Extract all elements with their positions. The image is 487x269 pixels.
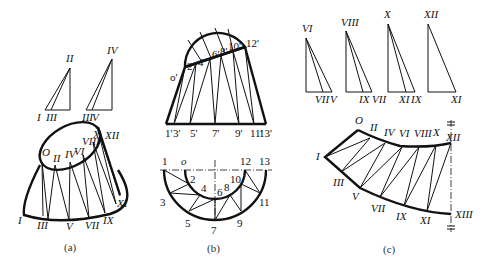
panel-a: II I III IV III V bbox=[17, 44, 129, 254]
label-4: 4 bbox=[201, 182, 207, 194]
label-1-prime: 1' bbox=[165, 127, 173, 139]
label-IX: IX bbox=[395, 210, 408, 222]
true-length-triangle-IV: IV III V bbox=[81, 44, 119, 123]
label-III: III bbox=[36, 219, 49, 231]
label-13-prime: 13' bbox=[259, 127, 272, 139]
label-II: II bbox=[65, 52, 75, 64]
label-8-prime: 8' bbox=[220, 45, 228, 57]
true-length-triangle-XII: XII XI bbox=[423, 8, 463, 105]
label-VI: VI bbox=[302, 22, 314, 34]
label-IV: IV bbox=[106, 44, 119, 56]
label-11: 11 bbox=[259, 196, 270, 208]
label-13: 13 bbox=[259, 155, 271, 167]
label-XI: XI bbox=[450, 93, 463, 105]
label-VI: VI bbox=[399, 127, 411, 139]
label-IX: IX bbox=[410, 93, 423, 105]
label-III: III bbox=[45, 111, 58, 123]
label-10: 10 bbox=[230, 173, 242, 185]
label-7: 7 bbox=[211, 224, 217, 236]
label-3-prime: 3' bbox=[173, 127, 181, 139]
label-7-prime: 7' bbox=[212, 127, 220, 139]
triangulation-development-figure: II I III IV III V bbox=[0, 0, 487, 269]
label-XI: XI bbox=[116, 197, 129, 209]
label-IX: IX bbox=[102, 214, 115, 226]
label-VIII: VIII bbox=[414, 127, 433, 139]
label-10-prime: 10' bbox=[228, 40, 241, 52]
label-6: 6 bbox=[217, 186, 223, 198]
caption-a: (a) bbox=[64, 241, 77, 254]
label-XI: XI bbox=[398, 93, 411, 105]
label-XII: XII bbox=[104, 129, 120, 141]
true-length-triangle-II: II I III bbox=[36, 52, 75, 123]
label-5: 5 bbox=[185, 217, 191, 229]
caption-c: (c) bbox=[383, 243, 396, 256]
label-VIII: VIII bbox=[341, 16, 360, 28]
label-X: X bbox=[383, 8, 392, 20]
label-I: I bbox=[315, 150, 321, 162]
label-VII: VII bbox=[372, 93, 387, 105]
label-o: o bbox=[181, 155, 187, 167]
label-V: V bbox=[66, 220, 74, 232]
label-IX: IX bbox=[358, 93, 371, 105]
label-V: V bbox=[330, 93, 338, 105]
label-2: 2 bbox=[190, 173, 196, 185]
top-view bbox=[160, 160, 272, 220]
label-12-prime: 12' bbox=[246, 37, 259, 49]
label-VII: VII bbox=[315, 93, 330, 105]
caption-b: (b) bbox=[207, 242, 220, 255]
label-V: V bbox=[92, 111, 100, 123]
label-XII: XII bbox=[445, 131, 461, 143]
label-O: O bbox=[355, 114, 363, 126]
label-X: X bbox=[92, 128, 101, 140]
true-length-triangle-VIII: VIII IX VII bbox=[341, 16, 387, 105]
true-length-triangle-VI: VI VII V bbox=[302, 22, 338, 105]
label-6-prime: 6' bbox=[212, 48, 220, 60]
label-9-prime: 9' bbox=[235, 127, 243, 139]
label-2-prime: 2' bbox=[187, 60, 195, 72]
label-IV: IV bbox=[383, 126, 396, 138]
label-II: II bbox=[369, 121, 379, 133]
label-XII: XII bbox=[423, 8, 439, 20]
label-VII: VII bbox=[85, 219, 100, 231]
label-XI: XI bbox=[419, 214, 432, 226]
label-5-prime: 5' bbox=[190, 127, 198, 139]
panel-c: VI VII V VIII IX VII X XI IX XII XI bbox=[302, 8, 474, 256]
label-V: V bbox=[352, 190, 360, 202]
label-1: 1 bbox=[162, 155, 168, 167]
panel-b: o' 2' 4' 6' 8' 10' 12' 1' 3' 5' 7' 9' 11… bbox=[160, 28, 272, 255]
label-9: 9 bbox=[237, 217, 243, 229]
label-I: I bbox=[36, 111, 42, 123]
label-III: III bbox=[332, 176, 345, 188]
label-I: I bbox=[17, 214, 23, 226]
label-4-prime: 4' bbox=[198, 56, 206, 68]
label-II: II bbox=[52, 152, 62, 164]
label-o-prime: o' bbox=[170, 71, 178, 83]
label-XIII: XIII bbox=[454, 208, 474, 220]
true-length-triangle-X: X XI IX bbox=[383, 8, 423, 105]
label-3: 3 bbox=[160, 196, 166, 208]
label-12: 12 bbox=[240, 155, 251, 167]
label-VII: VII bbox=[371, 202, 386, 214]
label-X: X bbox=[432, 126, 441, 138]
label-O: O bbox=[42, 146, 50, 158]
